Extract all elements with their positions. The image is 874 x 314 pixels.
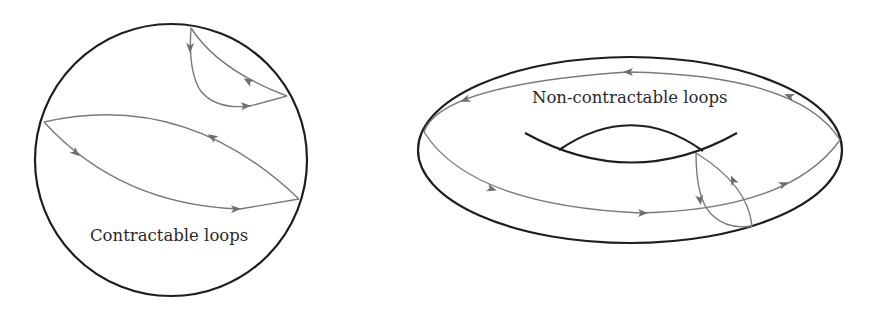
torus-outer-outline: [418, 57, 842, 243]
meridian-loop: [695, 153, 752, 227]
arrow-down-icon: [695, 194, 705, 205]
arrow-up-left-icon: [206, 131, 219, 143]
sphere-outline: [35, 24, 307, 296]
contractable-loops-label: Contractable loops: [90, 226, 248, 245]
arrow-up-left-icon: [783, 91, 795, 102]
arrow-up-left-icon: [242, 75, 255, 87]
arrow-down-left-icon: [459, 94, 471, 105]
small-loop-lower-arc: [190, 28, 287, 107]
meridian-loop-left: [696, 153, 752, 227]
torus-hole-upper-curve: [559, 125, 703, 151]
torus-hole-lower-curve: [525, 133, 737, 163]
small-loop-upper-arc: [191, 28, 287, 96]
non-contractable-loops-label: Non-contractable loops: [532, 88, 727, 107]
sphere-diagram: Contractable loops: [35, 24, 307, 296]
meridian-loop-right: [696, 153, 752, 226]
large-loop-lower-arc: [44, 122, 299, 209]
torus-diagram: Non-contractable loops: [418, 57, 842, 243]
longitude-loop-bottom: [424, 132, 840, 213]
large-contractable-loop: [44, 115, 299, 213]
topology-loops-figure: Contractable loops Non-contractable loop…: [0, 0, 874, 314]
